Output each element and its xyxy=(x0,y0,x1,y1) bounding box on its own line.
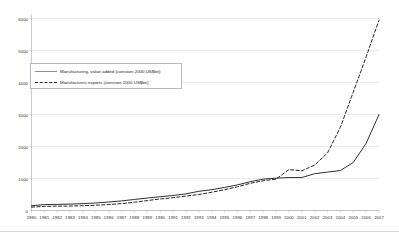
legend-label-manufactures-exports: Manufactures exports (constant 2000 US$b… xyxy=(60,80,149,85)
x-axis-tick-label: 1990 xyxy=(155,215,165,220)
x-axis-tick-label: 2000 xyxy=(284,215,294,220)
legend-label-manufacturing-value-added: Manufacturing, value added (constant 200… xyxy=(60,69,161,74)
x-axis-tick-label: 1997 xyxy=(245,215,255,220)
x-axis-tick-label: 2007 xyxy=(374,215,384,220)
bottom-divider xyxy=(0,231,399,232)
y-axis-tick-label: 6000 xyxy=(8,16,28,21)
line-chart: Manufacturing, value added (constant 200… xyxy=(0,0,399,235)
x-axis-tick-label: 2006 xyxy=(361,215,371,220)
x-axis-tick-label: 1993 xyxy=(194,215,204,220)
plot-area xyxy=(0,0,399,235)
y-axis-tick-label: 5000 xyxy=(8,48,28,53)
x-axis-tick-label: 1983 xyxy=(65,215,75,220)
x-axis-tick-label: 1986 xyxy=(104,215,114,220)
x-axis-tick-label: 2001 xyxy=(297,215,307,220)
x-axis-tick-label: 1989 xyxy=(142,215,152,220)
x-axis-tick-label: 1985 xyxy=(91,215,101,220)
legend-swatch-dashed-line xyxy=(35,82,57,83)
x-axis-tick-label: 1984 xyxy=(78,215,88,220)
x-axis-tick-label: 2003 xyxy=(323,215,333,220)
chart-legend: Manufacturing, value added (constant 200… xyxy=(30,63,182,89)
x-axis-tick-label: 1995 xyxy=(220,215,230,220)
x-axis-tick-label: 1982 xyxy=(52,215,62,220)
x-axis-tick-label: 2002 xyxy=(310,215,320,220)
x-axis-tick-label: 1999 xyxy=(271,215,281,220)
x-axis-tick-label: 1980 xyxy=(27,215,37,220)
y-axis-tick-label: 4000 xyxy=(8,80,28,85)
legend-swatch-solid-line xyxy=(35,71,57,72)
x-axis-tick-label: 2005 xyxy=(348,215,358,220)
x-axis-tick-label: 1996 xyxy=(233,215,243,220)
x-axis-tick-label: 2004 xyxy=(336,215,346,220)
legend-item-manufacturing-value-added: Manufacturing, value added (constant 200… xyxy=(35,66,161,76)
x-axis-tick-label: 1988 xyxy=(130,215,140,220)
x-axis-tick-label: 1991 xyxy=(168,215,178,220)
y-axis-tick-label: 2000 xyxy=(8,144,28,149)
series-line-solid xyxy=(32,115,380,206)
x-axis-tick-label: 1981 xyxy=(40,215,50,220)
x-axis-tick-label: 1994 xyxy=(207,215,217,220)
series-line-dashed xyxy=(32,20,380,207)
y-axis-tick-label: 1000 xyxy=(8,176,28,181)
x-axis-tick-label: 1992 xyxy=(181,215,191,220)
legend-item-manufactures-exports: Manufactures exports (constant 2000 US$b… xyxy=(35,77,149,87)
x-axis-tick-label: 1998 xyxy=(258,215,268,220)
y-axis-tick-label: 0 xyxy=(8,208,28,213)
y-axis-tick-label: 3000 xyxy=(8,112,28,117)
x-axis-tick-label: 1987 xyxy=(117,215,127,220)
